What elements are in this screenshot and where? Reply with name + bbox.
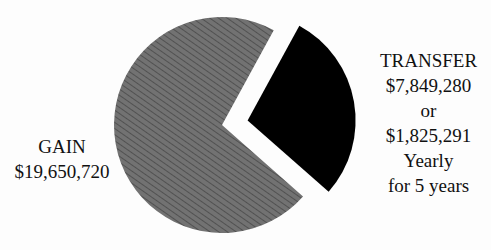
transfer-yearly-value: $1,825,291 <box>366 123 491 148</box>
transfer-value: $7,849,280 <box>366 73 491 98</box>
transfer-label: TRANSFER $7,849,280 or $1,825,291 Yearly… <box>366 48 491 198</box>
gain-value: $19,650,720 <box>0 159 124 184</box>
gain-label: GAIN $19,650,720 <box>0 134 124 184</box>
transfer-or: or <box>366 98 491 123</box>
transfer-duration: for 5 years <box>366 173 491 198</box>
transfer-yearly: Yearly <box>366 148 491 173</box>
transfer-title: TRANSFER <box>366 48 491 73</box>
gain-title: GAIN <box>0 134 124 159</box>
